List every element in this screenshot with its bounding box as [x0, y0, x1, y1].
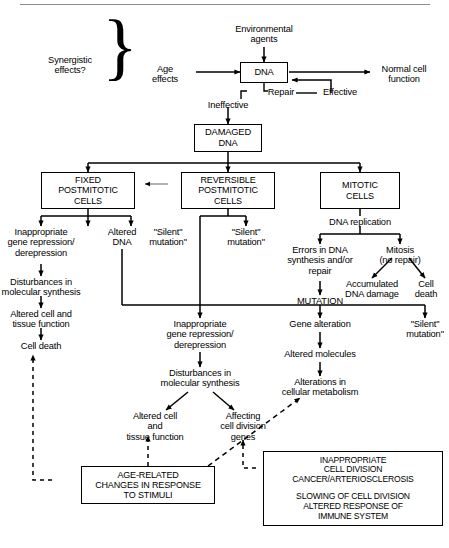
label-ineffective: Ineffective	[196, 100, 260, 110]
box-outcomes: INAPPROPRIATE CELL DIVISION CANCER/ARTER…	[263, 451, 443, 526]
label-errors-in-dna: Errors in DNA synthesis and/or repair	[274, 245, 366, 276]
top-rule	[20, 4, 430, 5]
label-effective: Effective	[315, 87, 365, 97]
label-silent-mutation-mid: "Silent" mutation"	[218, 227, 274, 248]
label-cell-death-right: Cell death	[408, 279, 444, 300]
label-repair: Repair	[259, 87, 303, 97]
box-age-related-changes: AGE-RELATED CHANGES IN RESPONSE TO STIMU…	[81, 466, 215, 504]
box-reversible-postmitotic-cells: REVERSIBLE POSTMITOTIC CELLS	[181, 172, 275, 209]
label-disturbances-left: Disturbances in molecular synthesis	[0, 277, 90, 298]
box-damaged-dna: DAMAGED DNA	[194, 124, 262, 152]
label-cell-death-left: Cell death	[7, 341, 75, 351]
outcome-upper-text: INAPPROPRIATE CELL DIVISION CANCER/ARTER…	[292, 456, 413, 485]
label-altered-cell-and-tissue: Altered cell and tissue function	[119, 411, 191, 442]
label-gene-alteration: Gene alteration	[277, 319, 363, 329]
box-fixed-postmitotic-cells: FIXED POSTMITOTIC CELLS	[41, 172, 135, 209]
label-inappropriate-gene-repression-mid: Inappropriate gene repression/ derepress…	[156, 319, 244, 350]
diagram-canvas: } Synergistic effects? Environmental age…	[0, 0, 449, 548]
label-environmental-agents: Environmental agents	[214, 24, 314, 45]
outcome-lower-text: SLOWING OF CELL DIVISION ALTERED RESPONS…	[296, 492, 410, 521]
label-normal-cell-function: Normal cell function	[362, 64, 446, 85]
label-altered-dna: Altered DNA	[99, 227, 145, 248]
label-synergistic-effects: Synergistic effects?	[26, 55, 114, 76]
label-mitosis-no-repair: Mitosis (no repair)	[369, 245, 431, 266]
label-altered-cell-tissue-left: Altered cell and tissue function	[0, 309, 87, 330]
label-disturbances-mid: Disturbances in molecular synthesis	[150, 368, 250, 389]
label-alterations-cellular-metabolism: Alterations in cellular metabolism	[266, 377, 374, 398]
label-dna-replication: DNA replication	[318, 217, 402, 227]
box-dna: DNA	[240, 62, 288, 83]
label-age-effects: Age effects	[137, 64, 193, 85]
box-mitotic-cells: MITOTIC CELLS	[320, 172, 400, 209]
label-affecting-cell-division-genes: Affecting cell division genes	[211, 411, 275, 442]
label-silent-mutation-right: "Silent" mutation"	[400, 319, 449, 340]
label-silent-mutation-left: "Silent" mutation"	[140, 227, 196, 248]
label-altered-molecules: Altered molecules	[270, 349, 370, 359]
label-mutation: MUTATION	[286, 296, 354, 306]
label-inappropriate-gene-repression-left: Inappropriate gene repression/ derepress…	[0, 227, 84, 258]
